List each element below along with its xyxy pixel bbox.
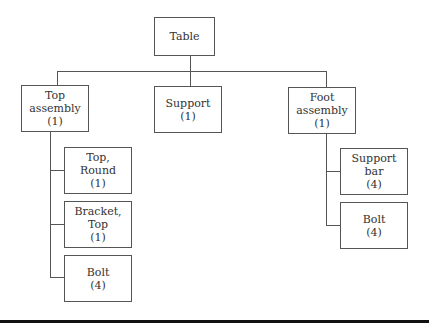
connector-to-bracket-top	[50, 224, 64, 225]
node-label: Support	[165, 97, 210, 110]
node-label: Top,	[86, 151, 110, 164]
connector-level1-horizontal	[57, 71, 327, 72]
node-quantity: (1)	[90, 231, 106, 244]
node-label: assembly	[296, 104, 348, 117]
node-quantity: (1)	[314, 117, 330, 130]
node-quantity: (4)	[366, 226, 382, 239]
connector-foot-assembly-spine	[326, 133, 327, 226]
node-label: Foot	[310, 91, 335, 104]
connector-to-support-bar	[326, 171, 340, 172]
node-label: Round	[80, 164, 116, 177]
node-label: Table	[169, 30, 199, 43]
node-bolt-foot: Bolt (4)	[340, 202, 408, 249]
connector-to-top-assembly	[57, 71, 58, 86]
connector-to-top-round	[50, 170, 64, 171]
node-label: bar	[365, 165, 384, 178]
node-label: assembly	[29, 102, 81, 115]
node-top-assembly: Top assembly (1)	[21, 85, 89, 132]
node-label: Bolt	[87, 266, 110, 279]
node-quantity: (1)	[180, 110, 196, 123]
node-support: Support (1)	[154, 86, 222, 133]
node-quantity: (1)	[90, 177, 106, 190]
node-label: Bolt	[363, 213, 386, 226]
node-quantity: (4)	[90, 279, 106, 292]
connector-to-bolt-top	[50, 277, 64, 278]
node-label: Top	[88, 218, 108, 231]
node-label: Top	[45, 89, 65, 102]
node-label: Bracket,	[74, 205, 121, 218]
node-label: Support	[351, 152, 396, 165]
node-top-round: Top, Round (1)	[64, 147, 132, 194]
node-bracket-top: Bracket, Top (1)	[64, 201, 132, 248]
node-foot-assembly: Foot assembly (1)	[288, 87, 356, 134]
connector-to-foot-assembly	[326, 71, 327, 87]
node-table: Table	[154, 17, 215, 56]
node-bolt-top: Bolt (4)	[64, 255, 132, 302]
bottom-rule	[0, 320, 429, 323]
connector-top-assembly-spine	[50, 131, 51, 278]
node-support-bar: Support bar (4)	[340, 148, 408, 195]
connector-to-bolt-foot	[326, 225, 340, 226]
node-quantity: (1)	[47, 115, 63, 128]
node-quantity: (4)	[366, 178, 382, 191]
